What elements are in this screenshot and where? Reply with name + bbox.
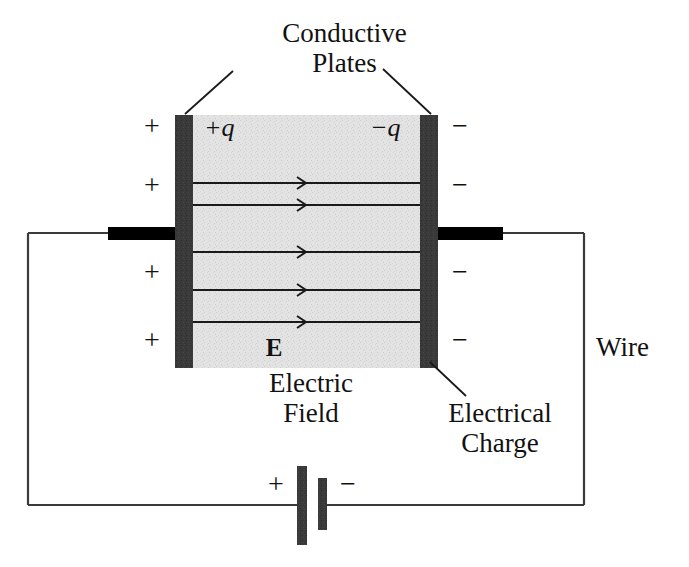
left-plate-positive-sign-3: + xyxy=(140,258,164,286)
title-line-2: Plates xyxy=(0,48,689,78)
label-field-symbol-E: E xyxy=(254,334,294,362)
terminal-stub-left xyxy=(108,227,180,240)
right-plate-negative-sign-1: − xyxy=(448,112,472,140)
dielectric-region xyxy=(193,115,420,368)
battery-negative-sign: − xyxy=(336,470,360,498)
left-plate-positive-sign-2: + xyxy=(140,171,164,199)
electric-field-line-1: Electric xyxy=(226,368,396,398)
right-plate-negative-sign-4: − xyxy=(448,326,472,354)
electric-field-line-2: Field xyxy=(226,398,396,428)
label-positive-charge-q: +q xyxy=(204,113,235,142)
label-negative-charge-q: −q xyxy=(370,113,401,142)
right-plate-negative-sign-3: − xyxy=(448,258,472,286)
left-plate-positive-sign-1: + xyxy=(140,112,164,140)
terminal-stub-right xyxy=(436,227,503,240)
right-conductive-plate xyxy=(420,115,438,368)
battery-positive-sign: + xyxy=(264,470,288,498)
battery-short-plate xyxy=(318,478,327,530)
capacitor-circuit-diagram: Conductive Plates +q −q E Electric Field… xyxy=(0,0,689,567)
electrical-charge-line-2: Charge xyxy=(400,428,600,458)
title-line-1: Conductive xyxy=(0,18,689,48)
left-plate-positive-sign-4: + xyxy=(140,326,164,354)
title-conductive-plates: Conductive Plates xyxy=(0,18,689,78)
battery-symbol xyxy=(297,466,327,545)
label-electric-field: Electric Field xyxy=(226,368,396,428)
leader-line-electrical-charge xyxy=(430,362,466,396)
electrical-charge-line-1: Electrical xyxy=(400,398,600,428)
right-plate-negative-sign-2: − xyxy=(448,171,472,199)
label-wire: Wire xyxy=(596,332,649,362)
left-conductive-plate xyxy=(175,115,193,368)
label-electrical-charge: Electrical Charge xyxy=(400,398,600,458)
battery-long-plate xyxy=(297,466,307,545)
